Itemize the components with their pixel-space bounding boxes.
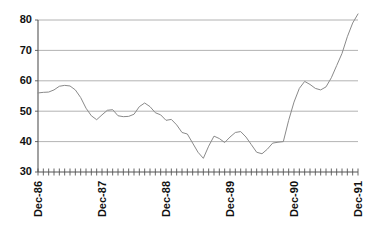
y-tick-label: 30 [20, 165, 32, 177]
x-tick-label: Dec-90 [288, 181, 300, 217]
y-tick-label: 50 [20, 105, 32, 117]
data-series-line [38, 14, 358, 158]
y-tick-label: 70 [20, 44, 32, 56]
y-tick-label: 40 [20, 135, 32, 147]
y-tick-label: 60 [20, 74, 32, 86]
y-axis-tick-labels: 304050607080 [20, 13, 32, 177]
x-tick-label: Dec-89 [224, 181, 236, 217]
x-tick-label: Dec-86 [32, 181, 44, 217]
chart-plot-area: 304050607080 Dec-86Dec-87Dec-88Dec-89Dec… [0, 0, 369, 228]
x-tick-label: Dec-88 [160, 181, 172, 217]
x-tick-label: Dec-91 [352, 181, 364, 217]
x-axis-tick-marks [38, 169, 358, 176]
line-chart: 304050607080 Dec-86Dec-87Dec-88Dec-89Dec… [0, 0, 369, 228]
x-axis-tick-labels: Dec-86Dec-87Dec-88Dec-89Dec-90Dec-91 [32, 181, 364, 217]
x-tick-label: Dec-87 [96, 181, 108, 217]
y-tick-label: 80 [20, 13, 32, 25]
